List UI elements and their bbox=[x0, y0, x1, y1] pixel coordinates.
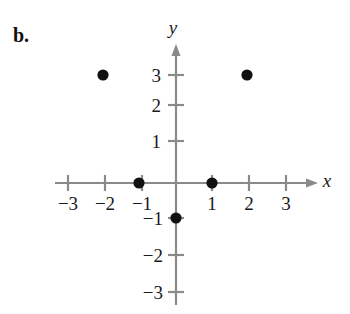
x-tick-label-2: 2 bbox=[244, 193, 254, 214]
y-tick-label-2: 2 bbox=[152, 95, 162, 116]
x-tick-label--2: −2 bbox=[95, 193, 115, 214]
x-tick-label--3: −3 bbox=[58, 193, 78, 214]
y-axis-arrow-icon bbox=[172, 44, 181, 56]
x-tick-label-3: 3 bbox=[281, 193, 291, 214]
coordinate-plane: −3 −2 −1 1 2 3 3 2 1 −1 −2 −3 x y bbox=[0, 0, 350, 314]
data-point bbox=[241, 69, 252, 80]
y-tick-label-3: 3 bbox=[152, 65, 162, 86]
x-axis-arrow-icon bbox=[306, 179, 318, 188]
data-point bbox=[206, 177, 217, 188]
data-point bbox=[97, 69, 108, 80]
y-tick-label-1: 1 bbox=[152, 131, 162, 152]
data-point bbox=[133, 177, 144, 188]
data-point bbox=[170, 212, 181, 223]
figure-panel: b. −3 −2 −1 1 2 3 3 2 1 −1 bbox=[0, 0, 350, 314]
y-axis-label: y bbox=[167, 17, 178, 38]
y-tick-label--2: −2 bbox=[143, 245, 163, 266]
x-tick-label-1: 1 bbox=[207, 193, 217, 214]
y-tick-label--1: −1 bbox=[143, 208, 163, 229]
y-tick-label--3: −3 bbox=[143, 282, 163, 303]
x-axis-label: x bbox=[322, 170, 332, 191]
